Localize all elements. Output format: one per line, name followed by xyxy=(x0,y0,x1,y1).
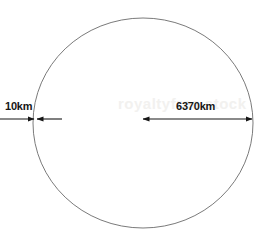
earth-circle xyxy=(33,18,253,228)
atmosphere-dimension-label: 10km xyxy=(5,101,32,112)
radius-dimension-label: 6370km xyxy=(176,101,215,112)
diagram-canvas xyxy=(0,0,260,243)
earth-atmosphere-scale-diagram: royaltyfree stock 10km 6370km xyxy=(0,0,260,243)
